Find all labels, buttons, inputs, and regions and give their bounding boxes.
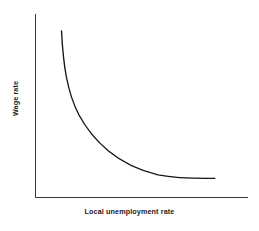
chart-canvas [0,0,259,231]
wage-curve-figure: Wage rate Local unemployment rate [0,0,259,231]
wage-curve-path [62,31,215,178]
y-axis-label-container: Wage rate [0,0,32,197]
y-axis-label: Wage rate [12,81,21,116]
x-axis-label: Local unemployment rate [0,207,259,216]
